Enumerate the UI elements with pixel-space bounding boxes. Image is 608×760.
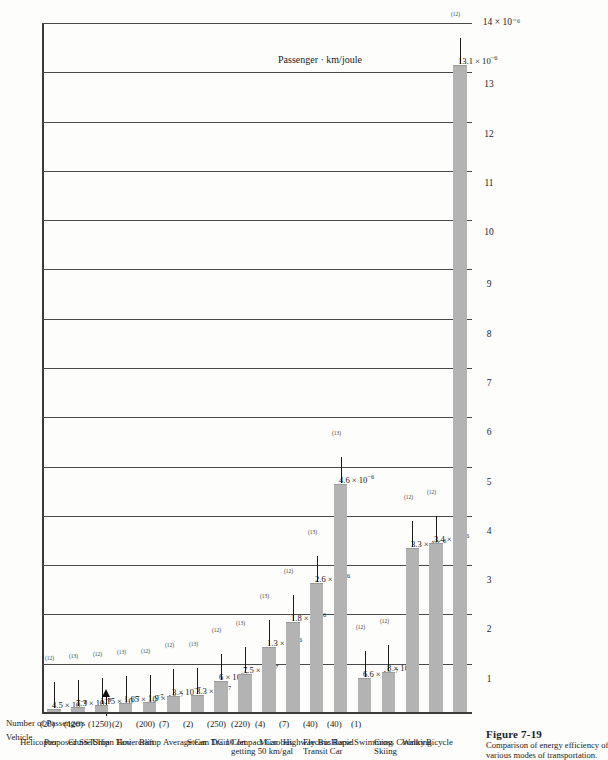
bar-row: 13.1 × 10−6(12) xyxy=(453,24,467,712)
bar-compact-car xyxy=(262,647,276,712)
tick-label-6: 6 xyxy=(487,427,492,437)
tick-label-8: 8 xyxy=(487,328,492,338)
bar-row: 8 × 10−7(12) xyxy=(382,24,396,712)
citation-marker: (12) xyxy=(451,11,460,17)
passenger-count: (120) xyxy=(64,720,83,729)
tick-label-10: 10 xyxy=(484,227,494,237)
bar-row: 6.6 × 10−7(12) xyxy=(358,24,372,712)
bar-row: 1.3 × 10−6(13) xyxy=(262,24,276,712)
figure-caption-line1: Comparison of energy efficiency of xyxy=(486,740,608,750)
citation-marker: (12) xyxy=(284,568,293,574)
citation-marker: (13) xyxy=(260,593,269,599)
bar-row: 1.15 × 10−7(12) xyxy=(95,24,109,712)
passenger-count: (2) xyxy=(183,720,193,729)
passenger-count: (1) xyxy=(351,720,361,729)
bar-row: 4.6 × 10−6(13) xyxy=(334,24,348,712)
bar-dc-10-jet xyxy=(238,674,252,712)
bar-cruise-ship xyxy=(95,705,109,712)
passenger-count: (4) xyxy=(255,720,265,729)
bar-row: 1.65 × 10−7(13) xyxy=(119,24,133,712)
tick-label-2: 2 xyxy=(487,624,492,634)
bar-swimming xyxy=(382,672,396,712)
bar-cross-country xyxy=(406,548,420,712)
citation-marker: (13) xyxy=(332,430,341,436)
axis-title: Passenger · km/joule xyxy=(278,54,362,65)
passenger-count: (200) xyxy=(136,720,155,729)
tick-label-7: 7 xyxy=(487,378,492,388)
bar-proposed-sst xyxy=(71,707,85,712)
figure-number: Figure 7-19 xyxy=(486,728,608,740)
bar-average-car xyxy=(191,695,205,712)
bar-row: 3.3 × 10−7(13) xyxy=(191,24,205,712)
citation-marker: (13) xyxy=(236,620,245,626)
figure-caption: Figure 7-19 Comparison of energy efficie… xyxy=(486,728,608,760)
bar-row: 3 × 10−7(12) xyxy=(167,24,181,712)
passenger-count: (250) xyxy=(207,720,226,729)
bar-row: 4.5 × 10−8(12) xyxy=(47,24,61,712)
citation-marker: (13) xyxy=(69,653,78,659)
citation-marker: (12) xyxy=(356,624,365,630)
passenger-count: (1250) xyxy=(88,720,111,729)
bar-bicycle xyxy=(453,65,467,712)
tick-label-3: 3 xyxy=(487,575,492,585)
passenger-count: (7) xyxy=(159,720,169,729)
passenger-count: (2) xyxy=(112,720,122,729)
bar-highway-bus xyxy=(310,583,324,712)
tick-label-13: 13 xyxy=(484,80,494,90)
citation-marker: (13) xyxy=(117,649,126,655)
bar-row: 6 × 10−7(12) xyxy=(214,24,228,712)
tick-label-9: 9 xyxy=(487,279,492,289)
bar-row: 3.3 × 10−6(12) xyxy=(406,24,420,712)
bar-row: 3.4 × 10−6(12) xyxy=(429,24,443,712)
tick-label-14: 14 × 10⁻⁶ xyxy=(483,16,520,27)
citation-marker: (12) xyxy=(380,618,389,624)
citation-marker: (12) xyxy=(427,489,436,495)
citation-marker: (13) xyxy=(189,641,198,647)
bar-horse xyxy=(358,678,372,712)
citation-marker: (12) xyxy=(212,627,221,633)
citation-marker: (13) xyxy=(308,529,317,535)
passenger-count: (220) xyxy=(231,720,250,729)
bar-microbus xyxy=(286,622,300,712)
bar-electric-rapid xyxy=(334,484,348,712)
bar-row: 7.3 × 10−8(13) xyxy=(71,24,85,712)
figure-caption-line2: various modes of transportation. xyxy=(486,750,608,760)
tick-label-1: 1 xyxy=(487,673,492,683)
bar-row: 7.5 × 10−7(13) xyxy=(238,24,252,712)
bars-group: 4.5 × 10−8(12)7.3 × 10−8(13)1.15 × 10−7(… xyxy=(42,24,472,712)
bar-steam-train xyxy=(214,681,228,712)
passenger-count: (7) xyxy=(279,720,289,729)
tick-label-11: 11 xyxy=(484,178,493,188)
citation-marker: (12) xyxy=(45,655,54,661)
bar-value-label: 13.1 × 10−6 xyxy=(458,54,498,66)
bar-urban-taxi xyxy=(119,703,133,712)
tick-label-5: 5 xyxy=(487,476,492,486)
plot-area: 4.5 × 10−8(12)7.3 × 10−8(13)1.15 × 10−7(… xyxy=(42,24,472,714)
passenger-count: (20) xyxy=(40,720,55,729)
bar-walking xyxy=(429,543,443,712)
bar-row: 1.8 × 10−6(12) xyxy=(286,24,300,712)
citation-marker: (12) xyxy=(141,648,150,654)
bar-row: 1.9 × 10−7(12) xyxy=(143,24,157,712)
citation-marker: (12) xyxy=(93,651,102,657)
citation-marker: (12) xyxy=(165,642,174,648)
bar-row: 2.6 × 10−6(13) xyxy=(310,24,324,712)
value-axis-line xyxy=(42,712,472,714)
passenger-count: (40) xyxy=(303,720,318,729)
passenger-count: (40) xyxy=(327,720,342,729)
bar-hovercraft xyxy=(143,702,157,712)
tick-label-4: 4 xyxy=(487,525,492,535)
tick-label-12: 12 xyxy=(484,129,494,139)
bar-blimp xyxy=(167,696,181,712)
citation-marker: (12) xyxy=(404,494,413,500)
